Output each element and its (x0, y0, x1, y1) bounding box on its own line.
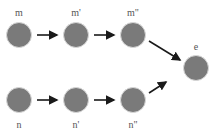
nodes (7, 23, 209, 113)
flow-diagram: m m' m" n n' n" e (0, 0, 212, 134)
node-m (7, 23, 32, 48)
node-n1 (64, 88, 89, 113)
label-n1: n' (73, 119, 80, 130)
arrow-m2-to-e (149, 41, 180, 60)
node-m2 (121, 23, 146, 48)
diagram-canvas: m m' m" n n' n" e (0, 0, 212, 134)
label-e: e (194, 41, 199, 52)
label-m1: m' (71, 7, 81, 18)
label-m: m (15, 7, 23, 18)
node-n (7, 88, 32, 113)
labels: m m' m" n n' n" e (15, 7, 199, 130)
edges (37, 35, 180, 100)
node-n2 (121, 88, 146, 113)
node-m1 (64, 23, 89, 48)
node-e (184, 56, 209, 81)
label-n: n (17, 119, 22, 130)
arrow-n2-to-e (149, 82, 166, 93)
label-n2: n" (128, 119, 137, 130)
label-m2: m" (127, 7, 139, 18)
